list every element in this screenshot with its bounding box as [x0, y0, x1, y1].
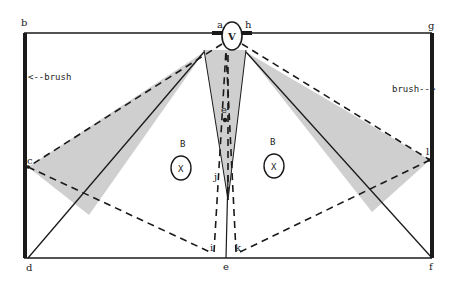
label-e-prime: e' [221, 104, 230, 115]
shaded-region-center [204, 50, 246, 200]
label-l: l [426, 146, 429, 157]
label-e: e [223, 261, 229, 272]
label-j: j [213, 171, 217, 182]
label-d: d [26, 262, 33, 273]
label-k: k [235, 242, 242, 253]
object-left-b: B [180, 139, 185, 149]
viewer-label: V [227, 31, 236, 42]
e-prime-dot [223, 118, 227, 122]
brush-right-label: brush--> [392, 84, 436, 94]
object-right-b: B [270, 137, 275, 147]
label-c: c [27, 155, 33, 166]
mirror-diagram: V X B X B b a h g c d e f l e' j i k <--… [0, 0, 456, 286]
label-i: i [210, 242, 213, 253]
label-a: a [217, 19, 223, 30]
object-right-x: X [271, 162, 277, 172]
shaded-region-right [246, 52, 430, 212]
object-left-x: X [178, 164, 184, 174]
brush-left-label: <--brush [28, 72, 71, 82]
label-b: b [21, 17, 27, 28]
l-dot [427, 158, 431, 162]
label-f: f [429, 261, 434, 272]
label-g: g [428, 20, 435, 31]
label-h: h [245, 19, 252, 30]
